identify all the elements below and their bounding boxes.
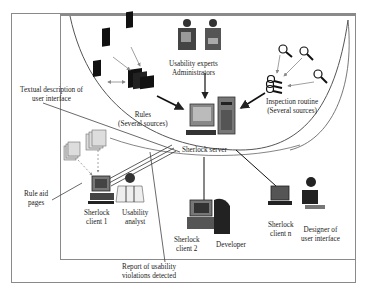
usability-experts-label: Usability experts Administrators [169, 60, 218, 77]
sherlock-server-label: Sherlock server [182, 146, 227, 155]
inspection-magnifier-icons [267, 45, 328, 93]
rule-aid-pages-icon [64, 130, 106, 160]
sherlock-client-n-designer-icon [268, 177, 325, 209]
sherlock-client-2-label: Sherlock client 2 [174, 236, 200, 253]
rules-label: Rules (Several sources) [118, 111, 168, 128]
sherlock-server-icon [186, 97, 235, 135]
rule-aid-pages-callout: Rule aid pages [24, 190, 48, 207]
report-callout: Report of usability violations detected [122, 263, 176, 280]
rules-documents-icon [93, 11, 154, 89]
inspection-routine-label: Inspection routine (Several sources) [266, 98, 318, 115]
usability-experts-icon [178, 19, 221, 50]
usability-analyst-label: Usability analyst [122, 209, 148, 226]
textual-description-callout: Textual description of user interface [20, 86, 83, 103]
sherlock-client-n-label: Sherlock client n [268, 221, 294, 238]
designer-label: Designer of user interface [301, 226, 340, 243]
developer-label: Developer [216, 241, 246, 250]
sherlock-client-2-developer-icon [187, 199, 230, 234]
sherlock-client-1-label: Sherlock client 1 [84, 209, 110, 226]
sherlock-client-1-icon [88, 176, 114, 204]
